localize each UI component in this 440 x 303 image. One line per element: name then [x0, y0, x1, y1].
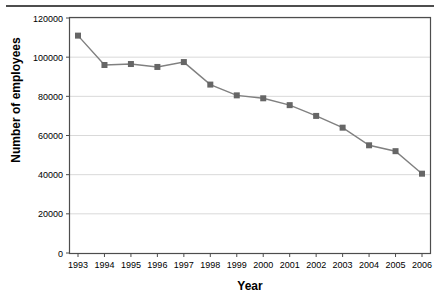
x-tick-label: 1995 — [121, 260, 141, 270]
data-point-marker — [313, 113, 319, 119]
y-tick-label: 120000 — [33, 14, 63, 24]
data-point-marker — [393, 148, 399, 154]
data-point-marker — [181, 59, 187, 65]
data-point-marker — [260, 95, 266, 101]
x-tick-label: 2003 — [333, 260, 353, 270]
x-tick-label: 2002 — [306, 260, 326, 270]
data-point-markers — [75, 33, 425, 177]
data-point-marker — [75, 33, 81, 39]
x-tick-label: 1998 — [200, 260, 220, 270]
y-tick-label: 0 — [58, 249, 63, 259]
chart-figure: Number of employees Year 020000400006000… — [0, 0, 440, 303]
data-point-marker — [366, 142, 372, 148]
x-tick-label: 2005 — [386, 260, 406, 270]
y-tick-label: 100000 — [33, 53, 63, 63]
data-point-marker — [419, 171, 425, 177]
y-axis-ticks: 020000400006000080000100000120000 — [33, 14, 70, 259]
y-tick-label: 20000 — [38, 209, 63, 219]
data-point-marker — [128, 61, 134, 67]
x-axis-ticks: 1993199419951996199719981999200020012002… — [68, 253, 432, 270]
x-tick-label: 1993 — [68, 260, 88, 270]
data-point-marker — [101, 62, 107, 68]
x-tick-label: 2004 — [359, 260, 379, 270]
data-point-marker — [340, 125, 346, 131]
x-tick-label: 2006 — [412, 260, 432, 270]
data-point-marker — [287, 102, 293, 108]
chart-canvas: 020000400006000080000100000120000 199319… — [0, 0, 440, 303]
y-tick-label: 60000 — [38, 131, 63, 141]
y-tick-label: 80000 — [38, 92, 63, 102]
x-tick-label: 1997 — [174, 260, 194, 270]
data-point-marker — [154, 64, 160, 70]
x-tick-label: 2000 — [253, 260, 273, 270]
data-point-marker — [207, 82, 213, 88]
x-tick-label: 1994 — [94, 260, 114, 270]
data-line-series — [78, 36, 422, 174]
data-point-marker — [234, 92, 240, 98]
grid-lines — [70, 18, 430, 214]
y-tick-label: 40000 — [38, 170, 63, 180]
x-tick-label: 1999 — [227, 260, 247, 270]
series-polyline — [78, 36, 422, 174]
x-tick-label: 2001 — [280, 260, 300, 270]
x-tick-label: 1996 — [147, 260, 167, 270]
